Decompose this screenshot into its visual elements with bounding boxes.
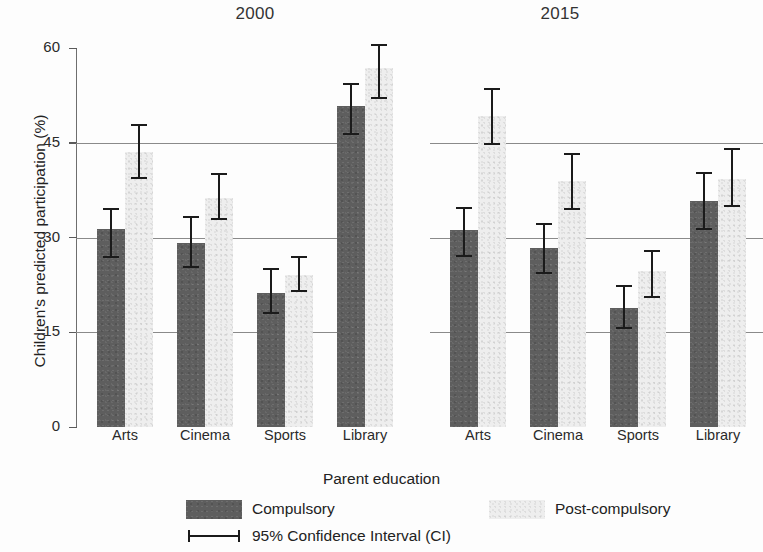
error-bar-cap-top: [536, 223, 552, 225]
error-bar-cap-top: [183, 216, 199, 218]
y-tick-label-15: 15: [20, 322, 60, 339]
error-bar-cap-bottom: [371, 97, 387, 99]
error-bar-cap-bottom: [263, 312, 279, 314]
ci-line: [188, 535, 240, 537]
error-bar-stem: [350, 83, 352, 134]
bar-2000-cinema-post-compulsory: [205, 198, 233, 427]
error-bar-cap-bottom: [456, 255, 472, 257]
error-bar-cap-top: [211, 173, 227, 175]
error-bar-2015-cinema-post-compulsory: [571, 153, 572, 210]
y-tick-60: [69, 48, 77, 49]
bar-2000-sports-post-compulsory: [285, 275, 313, 427]
error-bar-stem: [703, 172, 705, 230]
error-bar-cap-bottom: [183, 266, 199, 268]
error-bar-cap-bottom: [291, 290, 307, 292]
bar-2000-library-compulsory: [337, 106, 365, 427]
error-bar-cap-bottom: [103, 256, 119, 258]
error-bar-cap-bottom: [131, 177, 147, 179]
error-bar-2000-library-compulsory: [350, 83, 351, 134]
error-bar-stem: [623, 285, 625, 329]
error-bar-stem: [270, 268, 272, 313]
error-bar-2000-sports-compulsory: [270, 268, 271, 313]
ci-cap-left: [188, 530, 190, 542]
error-bar-stem: [110, 208, 112, 257]
error-bar-stem: [571, 153, 573, 210]
error-bar-cap-top: [564, 153, 580, 155]
panel-title-2000: 2000: [175, 4, 335, 24]
bar-2000-cinema-compulsory: [177, 243, 205, 427]
bar-2015-arts-post-compulsory: [478, 116, 506, 427]
x-tick-label-2000-arts: Arts: [90, 427, 160, 443]
error-bar-cap-bottom: [724, 205, 740, 207]
error-bar-2000-arts-compulsory: [110, 208, 111, 257]
error-bar-2000-library-post-compulsory: [378, 44, 379, 100]
error-bar-cap-bottom: [536, 272, 552, 274]
y-tick-0: [69, 427, 77, 428]
legend-swatch-post-compulsory: [489, 500, 545, 519]
error-bar-cap-top: [131, 124, 147, 126]
y-tick-label-0: 0: [20, 417, 60, 434]
bar-2015-library-post-compulsory: [718, 179, 746, 427]
error-bar-2015-arts-post-compulsory: [491, 88, 492, 145]
y-tick-label-30: 30: [20, 228, 60, 245]
ci-cap-right: [238, 530, 240, 542]
x-tick-label-2000-cinema: Cinema: [170, 427, 240, 443]
error-bar-cap-top: [644, 250, 660, 252]
error-bar-2000-arts-post-compulsory: [138, 124, 139, 179]
error-bar-cap-top: [291, 256, 307, 258]
error-bar-cap-bottom: [211, 218, 227, 220]
x-tick-label-2015-library: Library: [683, 427, 753, 443]
legend-label-compulsory: Compulsory: [252, 500, 335, 518]
error-bar-cap-bottom: [564, 208, 580, 210]
error-bar-cap-top: [696, 172, 712, 174]
x-tick-label-2000-sports: Sports: [250, 427, 320, 443]
bar-2000-library-post-compulsory: [365, 68, 393, 427]
error-bar-cap-top: [616, 285, 632, 287]
error-bar-cap-bottom: [616, 327, 632, 329]
error-bar-stem: [651, 250, 653, 298]
error-bar-cap-bottom: [696, 228, 712, 230]
x-tick-label-2015-sports: Sports: [603, 427, 673, 443]
error-bar-cap-top: [724, 148, 740, 150]
legend-swatch-compulsory: [186, 500, 242, 519]
error-bar-2000-cinema-post-compulsory: [218, 173, 219, 220]
bar-2015-cinema-post-compulsory: [558, 181, 586, 427]
error-bar-stem: [543, 223, 545, 274]
error-bar-cap-bottom: [644, 296, 660, 298]
error-bar-cap-bottom: [484, 143, 500, 145]
bar-2015-cinema-compulsory: [530, 248, 558, 427]
bar-2015-arts-compulsory: [450, 230, 478, 427]
y-tick-label-60: 60: [20, 38, 60, 55]
error-bar-cap-top: [103, 208, 119, 210]
error-bar-stem: [463, 207, 465, 258]
error-bar-cap-top: [343, 83, 359, 85]
error-bar-2015-library-compulsory: [703, 172, 704, 230]
error-bar-stem: [190, 216, 192, 268]
legend-ci-symbol: [186, 530, 242, 542]
x-tick-label-2015-cinema: Cinema: [523, 427, 593, 443]
x-tick-label-2000-library: Library: [330, 427, 400, 443]
x-axis-title: Parent education: [0, 470, 763, 488]
error-bar-stem: [491, 88, 493, 145]
x-tick-label-2015-arts: Arts: [443, 427, 513, 443]
error-bar-stem: [138, 124, 140, 179]
y-tick-label-45: 45: [20, 133, 60, 150]
bar-2000-arts-compulsory: [97, 229, 125, 427]
error-bar-cap-top: [371, 44, 387, 46]
error-bar-2015-library-post-compulsory: [731, 148, 732, 207]
error-bar-cap-top: [484, 88, 500, 90]
error-bar-2015-cinema-compulsory: [543, 223, 544, 274]
error-bar-cap-top: [456, 207, 472, 209]
error-bar-stem: [218, 173, 220, 220]
bar-2015-library-compulsory: [690, 201, 718, 427]
chart-figure: 2000 2015 Children's predicted participa…: [0, 0, 763, 552]
error-bar-2015-arts-compulsory: [463, 207, 464, 258]
error-bar-stem: [298, 256, 300, 292]
legend-label-ci: 95% Confidence Interval (CI): [252, 527, 451, 545]
error-bar-2000-sports-post-compulsory: [298, 256, 299, 292]
error-bar-2015-sports-compulsory: [623, 285, 624, 329]
bar-2000-arts-post-compulsory: [125, 152, 153, 427]
legend-label-post-compulsory: Post-compulsory: [555, 500, 670, 518]
error-bar-2000-cinema-compulsory: [190, 216, 191, 268]
error-bar-cap-top: [263, 268, 279, 270]
